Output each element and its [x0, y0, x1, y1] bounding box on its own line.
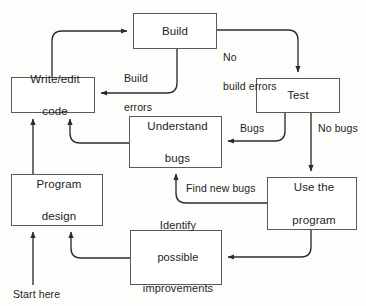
edge-label-no-build-errors-line1: No	[223, 51, 237, 63]
node-write-edit-code[interactable]: Write/edit code	[11, 77, 95, 113]
edge-label-find-new-bugs: Find new bugs	[186, 181, 256, 195]
node-write-edit-code-label-line1: Write/edit	[14, 71, 96, 87]
edge-label-build-errors-line2: errors	[124, 101, 152, 113]
edge-identify-to-program-design	[71, 232, 130, 258]
node-understand-bugs[interactable]: Understand bugs	[129, 116, 222, 168]
edge-label-no-bugs: No bugs	[318, 121, 358, 135]
node-write-edit-code-label-line2: code	[14, 103, 96, 119]
flowchart-canvas: Build Write/edit code Test Understand bu…	[0, 0, 366, 306]
node-build-label: Build	[134, 23, 216, 39]
edge-label-no-build-errors: No build errors	[223, 36, 277, 93]
node-program-design-label-line2: design	[14, 208, 104, 224]
edge-label-no-build-errors-line2: build errors	[223, 80, 277, 92]
start-here-caption: Start here	[13, 288, 60, 300]
node-identify-label-line2: possible	[133, 250, 223, 266]
edge-understand-to-write	[70, 119, 129, 143]
node-understand-bugs-label-line2: bugs	[132, 150, 223, 166]
edge-label-build-errors: Build errors	[124, 57, 152, 114]
node-identify-label-line1: Identify	[133, 218, 223, 234]
node-identify-possible-improvements[interactable]: Identify possible improvements	[130, 230, 222, 285]
node-use-the-program-label-line1: Use the	[270, 179, 358, 195]
node-understand-bugs-label-line1: Understand	[132, 118, 223, 134]
node-program-design[interactable]: Program design	[11, 174, 103, 226]
edge-label-build-errors-line1: Build	[124, 72, 148, 84]
node-build[interactable]: Build	[133, 13, 217, 49]
node-use-the-program[interactable]: Use the program	[267, 177, 357, 230]
node-identify-label-line3: improvements	[133, 281, 223, 297]
node-use-the-program-label-line2: program	[270, 212, 358, 228]
node-program-design-label-line1: Program	[14, 176, 104, 192]
edge-use-to-identify	[228, 230, 311, 257]
edge-label-bugs: Bugs	[240, 121, 264, 135]
